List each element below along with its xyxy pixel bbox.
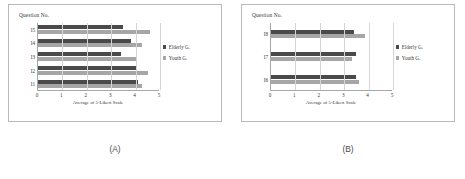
bar-rows-b: I8I7I6 bbox=[271, 23, 392, 90]
legend-item: Elderly G. bbox=[396, 44, 444, 50]
figure-container: Question No. I5I4I3I2I1 012345 Average o… bbox=[0, 0, 465, 179]
chart-panel-a: Question No. I5I4I3I2I1 012345 Average o… bbox=[8, 4, 222, 122]
y-tick-label: I6 bbox=[252, 77, 268, 83]
bar-rows-a: I5I4I3I2I1 bbox=[38, 23, 159, 90]
x-tick-label: 2 bbox=[318, 92, 321, 98]
gridline bbox=[344, 23, 345, 90]
legend-swatch-icon bbox=[163, 56, 166, 59]
legend-item: Youth G. bbox=[396, 55, 444, 61]
bar-youth-g bbox=[271, 57, 352, 61]
x-tick-label: 5 bbox=[391, 92, 394, 98]
gridline bbox=[87, 23, 88, 90]
x-tick-label: 0 bbox=[36, 92, 39, 98]
bar-group: I6 bbox=[271, 68, 392, 91]
y-tick-label: I8 bbox=[252, 31, 268, 37]
legend-swatch-icon bbox=[396, 56, 399, 59]
bar-group: I5 bbox=[38, 23, 159, 37]
legend-b: Elderly G.Youth G. bbox=[396, 44, 444, 66]
bar-youth-g bbox=[271, 34, 365, 38]
bar-group: I8 bbox=[271, 23, 392, 46]
y-axis-title-b: Question No. bbox=[252, 12, 282, 18]
chart-panel-b: Question No. I8I7I6 012345 Average of 5-… bbox=[241, 4, 455, 122]
bar-elderly-g bbox=[271, 30, 354, 34]
y-tick-label: I1 bbox=[19, 81, 35, 87]
legend-label: Elderly G. bbox=[169, 44, 190, 50]
x-axis-title-b: Average of 5-Likert Scale bbox=[270, 100, 392, 105]
gridline bbox=[320, 23, 321, 90]
bar-group: I4 bbox=[38, 37, 159, 51]
bar-group: I7 bbox=[271, 46, 392, 69]
x-tick-label: 4 bbox=[366, 92, 369, 98]
gridline bbox=[62, 23, 63, 90]
gridline bbox=[111, 23, 112, 90]
y-axis-title-a: Question No. bbox=[19, 12, 49, 18]
legend-swatch-icon bbox=[163, 45, 166, 48]
y-tick-label: I4 bbox=[19, 40, 35, 46]
gridline bbox=[393, 23, 394, 90]
bar-group: I3 bbox=[38, 50, 159, 64]
bar-elderly-g bbox=[38, 80, 138, 84]
y-tick-label: I2 bbox=[19, 68, 35, 74]
bar-youth-g bbox=[38, 71, 148, 75]
legend-label: Elderly G. bbox=[402, 44, 423, 50]
x-tick-label: 4 bbox=[133, 92, 136, 98]
x-tick-label: 3 bbox=[342, 92, 345, 98]
legend-a: Elderly G.Youth G. bbox=[163, 44, 211, 66]
bar-group: I2 bbox=[38, 64, 159, 78]
bar-elderly-g bbox=[38, 52, 121, 56]
plot-area-b: I8I7I6 bbox=[270, 23, 392, 91]
bar-group: I1 bbox=[38, 77, 159, 91]
gridline bbox=[160, 23, 161, 90]
bar-elderly-g bbox=[38, 39, 131, 43]
gridline bbox=[369, 23, 370, 90]
legend-label: Youth G. bbox=[169, 55, 187, 61]
x-tick-label: 1 bbox=[60, 92, 63, 98]
legend-item: Youth G. bbox=[163, 55, 211, 61]
x-tick-label: 2 bbox=[85, 92, 88, 98]
plot-area-a: I5I4I3I2I1 bbox=[37, 23, 159, 91]
x-tick-label: 3 bbox=[109, 92, 112, 98]
gridline bbox=[136, 23, 137, 90]
y-tick-label: I5 bbox=[19, 27, 35, 33]
bar-youth-g bbox=[271, 80, 359, 84]
y-tick-label: I3 bbox=[19, 54, 35, 60]
gridline bbox=[295, 23, 296, 90]
plot-frame-a: Question No. I5I4I3I2I1 012345 Average o… bbox=[15, 10, 215, 117]
plot-frame-b: Question No. I8I7I6 012345 Average of 5-… bbox=[248, 10, 448, 117]
x-tick-label: 1 bbox=[293, 92, 296, 98]
x-tick-label: 5 bbox=[158, 92, 161, 98]
panel-caption-a: (A) bbox=[8, 144, 222, 154]
panel-caption-b: (B) bbox=[241, 144, 455, 154]
x-axis-title-a: Average of 5-Likert Scale bbox=[37, 100, 159, 105]
bar-youth-g bbox=[38, 84, 142, 88]
legend-label: Youth G. bbox=[402, 55, 420, 61]
bar-youth-g bbox=[38, 30, 150, 34]
legend-item: Elderly G. bbox=[163, 44, 211, 50]
bar-youth-g bbox=[38, 43, 142, 47]
y-tick-label: I7 bbox=[252, 54, 268, 60]
legend-swatch-icon bbox=[396, 45, 399, 48]
x-tick-label: 0 bbox=[269, 92, 272, 98]
